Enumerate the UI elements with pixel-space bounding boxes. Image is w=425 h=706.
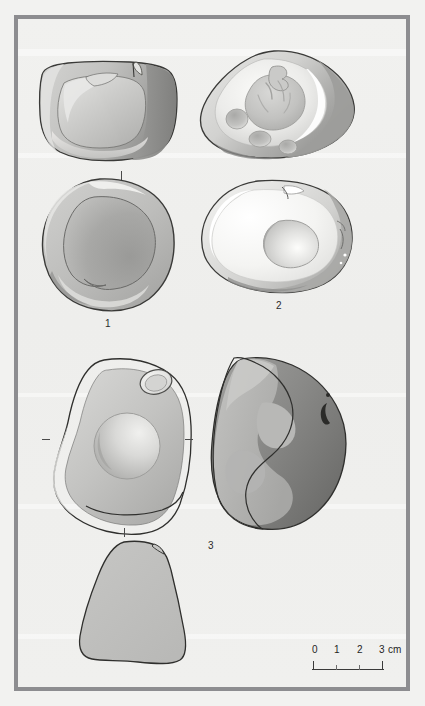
figure-3-profile — [68, 538, 198, 668]
scale-tick-label-1: 1 — [334, 644, 340, 655]
scale-bar-labels: 0 1 2 3 cm — [312, 644, 394, 658]
scale-bar: 0 1 2 3 cm — [312, 644, 394, 678]
figure-2-oblique — [196, 47, 361, 167]
figure-caption-1: 1 — [93, 318, 123, 329]
scale-tick-label-0: 0 — [312, 644, 318, 655]
figure-caption-2: 2 — [264, 300, 294, 311]
scale-tick-label-2: 2 — [357, 644, 363, 655]
scale-bar-rule — [312, 661, 384, 670]
figure-3-plan-tick-right — [185, 439, 193, 440]
page-canvas: 1 — [0, 0, 425, 706]
figure-3-plan — [42, 354, 202, 544]
scale-bar-tick-2 — [359, 665, 360, 670]
figure-3-plan-tick-bottom — [124, 528, 125, 537]
figure-3-section — [204, 355, 349, 535]
scale-bar-tick-0 — [313, 661, 314, 670]
scale-bar-line — [312, 669, 384, 670]
figure-2-plan — [198, 177, 358, 297]
figure-1-plan — [36, 175, 181, 315]
figure-3-plan-tick-left — [42, 439, 50, 440]
scale-unit-label: cm — [388, 644, 401, 655]
scale-bar-tick-3 — [382, 661, 383, 670]
scale-bar-tick-1 — [336, 665, 337, 670]
scale-tick-label-3: 3 — [379, 644, 385, 655]
plate-surface: 1 — [18, 19, 406, 687]
figure-caption-3: 3 — [196, 540, 226, 551]
figure-1-profile — [34, 55, 184, 165]
